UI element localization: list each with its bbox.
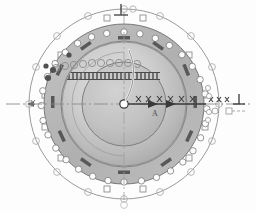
axis-letter-a: A xyxy=(152,109,158,118)
drawing-canvas: A ⊥ ⊥ A xyxy=(0,0,256,213)
flange-drawing-svg: A xyxy=(0,0,256,213)
center-hub xyxy=(120,100,128,108)
